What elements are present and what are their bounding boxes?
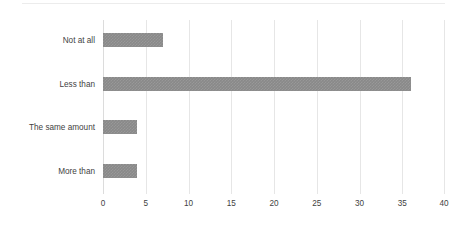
x-tick-label-35: 35	[382, 198, 422, 210]
x-tick-label-30: 30	[340, 198, 380, 210]
y-tick-label-more-than: More than	[0, 167, 95, 177]
x-tick-label-25: 25	[297, 198, 337, 210]
plot-area	[103, 20, 445, 194]
bar-row	[103, 151, 445, 195]
y-tick-label-the-same-amount: The same amount	[0, 123, 95, 133]
y-axis-labels: Not at all Less than The same amount Mor…	[0, 20, 99, 194]
bar-more-than[interactable]	[103, 164, 137, 178]
x-tick-label-10: 10	[169, 198, 209, 210]
x-tick-label-15: 15	[211, 198, 251, 210]
y-tick-label-not-at-all: Not at all	[0, 36, 95, 46]
bar-the-same-amount[interactable]	[103, 120, 137, 134]
bar-chart: Not at all Less than The same amount Mor…	[0, 0, 454, 228]
top-divider-rule	[22, 3, 445, 4]
bar-row	[103, 20, 445, 64]
bar-row	[103, 107, 445, 151]
x-tick-label-20: 20	[254, 198, 294, 210]
bar-less-than[interactable]	[103, 77, 411, 91]
y-tick-label-less-than: Less than	[0, 80, 95, 90]
x-tick-label-0: 0	[83, 198, 123, 210]
x-tick-label-40: 40	[424, 198, 454, 210]
x-axis-labels: 0 5 10 15 20 25 30 35 40	[0, 198, 454, 214]
bar-not-at-all[interactable]	[103, 33, 163, 47]
bar-row	[103, 64, 445, 108]
x-tick-label-5: 5	[126, 198, 166, 210]
